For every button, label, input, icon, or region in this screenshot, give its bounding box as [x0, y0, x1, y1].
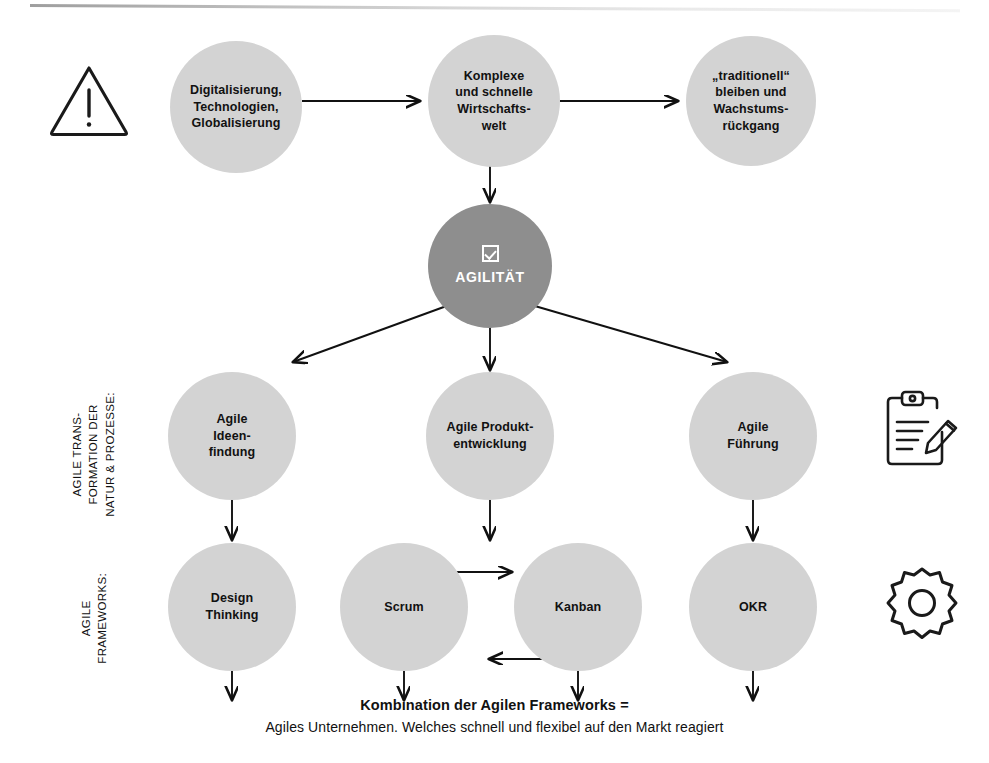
node-ideenfindung-label: Agile Ideen- findung — [203, 411, 262, 461]
node-wirtschaftswelt-label: Komplexe und schnelle Wirtschafts- welt — [449, 68, 539, 135]
node-traditionell[interactable]: „traditionell“ bleiben und Wachstums- rü… — [686, 36, 816, 166]
node-fuehrung-label: Agile Führung — [721, 419, 784, 453]
node-okr[interactable]: OKR — [689, 543, 817, 671]
node-agilitaet[interactable]: AGILITÄT — [428, 204, 552, 328]
node-digitalisierung-label: Digitalisierung, Technologien, Globalisi… — [184, 82, 288, 132]
node-scrum[interactable]: Scrum — [340, 543, 468, 671]
side-label-transformation: AGILE TRANS- FORMATION DER NATUR & PROZE… — [69, 359, 118, 549]
warning-triangle-icon — [48, 62, 130, 142]
node-wirtschaftswelt[interactable]: Komplexe und schnelle Wirtschafts- welt — [428, 35, 560, 167]
node-kanban-label: Kanban — [549, 599, 607, 616]
node-kanban[interactable]: Kanban — [514, 543, 642, 671]
side-label-frameworks: AGILE FRAMEWORKS: — [78, 548, 111, 688]
diagram-canvas: AGILE TRANS- FORMATION DER NATUR & PROZE… — [0, 0, 989, 763]
node-traditionell-label: „traditionell“ bleiben und Wachstums- rü… — [706, 68, 796, 135]
node-agilitaet-label: AGILITÄT — [449, 268, 530, 287]
result-caption-sub: Agiles Unternehmen. Welches schnell und … — [0, 719, 989, 735]
node-produktentwicklung[interactable]: Agile Produkt- entwicklung — [426, 372, 554, 500]
node-design-thinking-label: Design Thinking — [200, 590, 265, 624]
result-caption-bold: Kombination der Agilen Frameworks = — [0, 697, 989, 713]
node-produktentwicklung-label: Agile Produkt- entwicklung — [441, 419, 540, 453]
node-design-thinking[interactable]: Design Thinking — [168, 543, 296, 671]
arrow-agilitaet-to-fuehrung — [528, 304, 727, 362]
node-scrum-label: Scrum — [378, 599, 429, 616]
node-fuehrung[interactable]: Agile Führung — [689, 372, 817, 500]
checkbox-checked-icon — [482, 245, 499, 262]
clipboard-pencil-icon — [878, 388, 962, 476]
node-digitalisierung[interactable]: Digitalisierung, Technologien, Globalisi… — [170, 41, 302, 173]
arrow-agilitaet-to-ideenfindung — [293, 304, 452, 362]
node-okr-label: OKR — [733, 599, 773, 616]
node-ideenfindung[interactable]: Agile Ideen- findung — [168, 372, 296, 500]
gear-icon — [884, 566, 960, 646]
